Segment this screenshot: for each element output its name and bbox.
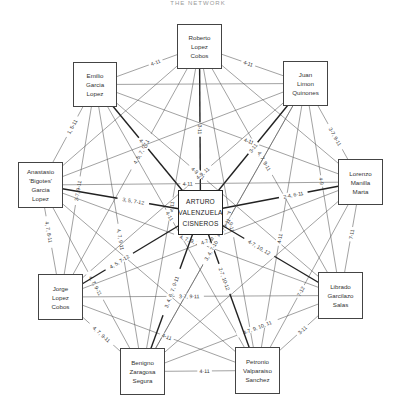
node-name-line: Manilla	[351, 178, 371, 187]
node-name-line: Salas	[333, 300, 348, 309]
node-name-line: Garcia	[86, 80, 104, 89]
node-name-line: Garcilazo	[327, 291, 353, 300]
node-arturo: ARTUROVALENZUELACISNEROS	[178, 190, 223, 235]
node-name-line: Cobos	[52, 302, 70, 311]
edge-label: 2-4, 6-11	[283, 190, 304, 200]
edge-label: 4-11	[276, 233, 284, 244]
edge-roberto-arturo: 3-11	[197, 47, 203, 213]
node-name-line: Lorenzo	[349, 169, 371, 178]
edge-label: 1, 5-11	[66, 118, 79, 135]
node-name-line: ARTURO	[186, 196, 215, 207]
node-name-line: Jorge	[53, 284, 68, 293]
node-name-line: Lopez	[87, 89, 104, 98]
node-jorge: JorgeLopezCobos	[38, 274, 83, 320]
node-name-line: Petronio	[246, 357, 269, 366]
node-name-line: Marta	[353, 187, 369, 196]
node-name-line: Garcia	[31, 185, 49, 194]
edge-label: 4-7, 9, 10, 11	[242, 319, 272, 335]
edge-label: 4-11	[200, 368, 210, 374]
node-name-line: Lopez	[32, 194, 49, 203]
edge-label: 4-11	[150, 58, 162, 67]
node-name-line: Librado	[330, 282, 351, 291]
edge-label: 3-11	[197, 124, 203, 134]
edge-label: 7-11	[347, 229, 355, 240]
edge-label: 4, 5, 7-12	[108, 253, 130, 270]
node-name-line: VALENZUELA	[178, 207, 222, 218]
node-petronio: PetronioValparaisoSanchez	[235, 347, 280, 394]
edge-label: 4-7, 10, 12	[247, 238, 271, 256]
node-name-line: Anastasio	[27, 167, 54, 176]
node-name-line: Emilio	[87, 71, 104, 80]
node-name-line: Zaragosa	[129, 367, 155, 376]
node-name-line: Lopez	[191, 42, 208, 51]
node-name-line: Valparaiso	[243, 366, 272, 375]
node-name-line: Limon	[297, 79, 314, 88]
node-lorenzo: LorenzoManillaMarta	[338, 159, 383, 205]
node-name-line: 'Bigotes'	[29, 176, 52, 185]
edge-label: 4-11	[161, 332, 173, 341]
edge-benigno-juan: 3, 4, 7-10	[143, 84, 306, 372]
edge-label: 4-11	[243, 59, 255, 68]
node-name-line: Quinones	[292, 88, 319, 97]
node-name-line: Sanchez	[245, 375, 269, 384]
edge-label: 3-7, 9-11	[328, 126, 343, 147]
node-juan: JuanLimonQuinones	[283, 61, 328, 106]
edge-label: 4-9	[318, 177, 325, 185]
node-name-line: Juan	[299, 70, 312, 79]
edge-label: 2-7, 10-12	[218, 267, 232, 291]
node-anastasio: Anastasio'Bigotes'GarciaLopez	[18, 162, 63, 208]
node-name-line: Cobos	[191, 51, 209, 60]
node-name-line: CISNEROS	[182, 218, 218, 229]
node-librado: LibradoGarcilazoSalas	[318, 272, 363, 319]
node-benigno: BenignoZaragosaSegura	[120, 348, 165, 395]
node-roberto: RobertoLopezCobos	[177, 24, 222, 69]
node-name-line: Lopez	[52, 293, 69, 302]
node-name-line: Benigno	[131, 358, 154, 367]
edge-label: 3-7, 9-11	[179, 293, 200, 299]
edge-label: 4, 7, 8-11	[44, 221, 54, 243]
edge-label: 4, 7, 9-11	[92, 325, 112, 344]
edge-label: 3, 5, 7-12	[122, 196, 145, 206]
edge-label: 4-11	[183, 181, 193, 187]
node-emilio: EmilioGarciaLopez	[73, 62, 117, 107]
node-name-line: Segura	[133, 376, 153, 385]
edge-label: 4, 7, 9-11	[256, 150, 272, 172]
node-name-line: Roberto	[188, 33, 210, 42]
